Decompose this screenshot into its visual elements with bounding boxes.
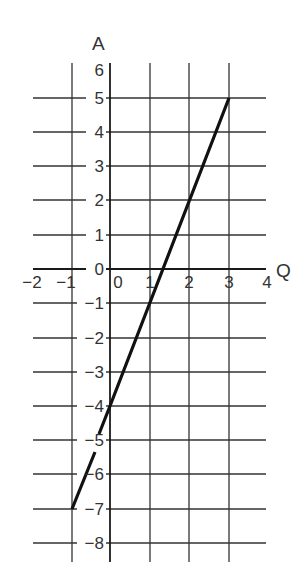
x-tick-2: 2 bbox=[184, 273, 193, 292]
y-tick-0: 0 bbox=[95, 260, 104, 279]
y-tick-m5: −5 bbox=[85, 431, 104, 450]
y-tick-m3: −3 bbox=[85, 363, 104, 382]
x-tick-4: 4 bbox=[262, 273, 271, 292]
x-tick-3: 3 bbox=[224, 273, 233, 292]
y-tick-1: 1 bbox=[95, 226, 104, 245]
x-tick-m1: −1 bbox=[56, 273, 75, 292]
series-segment-upper bbox=[99, 98, 229, 434]
x-tick-m2: −2 bbox=[22, 273, 41, 292]
y-tick-m7: −7 bbox=[85, 500, 104, 519]
y-axis-label: A bbox=[92, 33, 105, 54]
y-tick-m2: −2 bbox=[85, 329, 104, 348]
y-tick-m8: −8 bbox=[85, 534, 104, 553]
y-tick-m1: −1 bbox=[85, 294, 104, 313]
chart: A Q 6 5 4 3 2 1 0 −1 −2 −3 −4 −5 −6 −7 −… bbox=[0, 0, 303, 581]
y-tick-4: 4 bbox=[95, 123, 104, 142]
y-tick-m6: −6 bbox=[85, 465, 104, 484]
y-tick-m4: −4 bbox=[85, 397, 104, 416]
y-tick-5: 5 bbox=[95, 89, 104, 108]
x-axis-label: Q bbox=[276, 260, 291, 281]
x-tick-labels: −2 −1 0 1 2 3 4 bbox=[22, 273, 271, 292]
x-tick-0: 0 bbox=[113, 273, 122, 292]
y-tick-6: 6 bbox=[95, 61, 104, 80]
y-tick-3: 3 bbox=[95, 157, 104, 176]
y-tick-2: 2 bbox=[95, 191, 104, 210]
x-tick-1: 1 bbox=[145, 273, 154, 292]
